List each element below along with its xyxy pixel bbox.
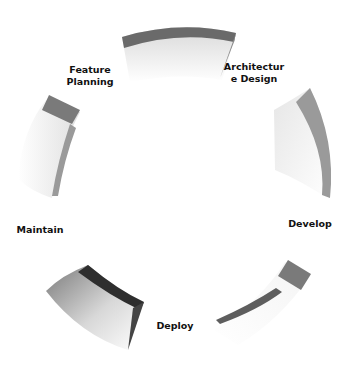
arc-segment-top	[122, 27, 236, 82]
arc-segment-left	[18, 95, 80, 198]
step-label-deploy: Deploy	[150, 320, 200, 332]
cycle-diagram	[0, 0, 353, 375]
arc-segment-lower-right	[214, 260, 311, 345]
step-label-maintain: Maintain	[12, 224, 68, 236]
arc-segment-right	[274, 88, 331, 200]
arc-segment-bottom-left	[46, 265, 144, 350]
step-label-architecture-design: Architectur e Design	[220, 61, 288, 85]
step-label-feature-planning: Feature Planning	[58, 64, 122, 88]
step-label-develop: Develop	[280, 218, 340, 230]
